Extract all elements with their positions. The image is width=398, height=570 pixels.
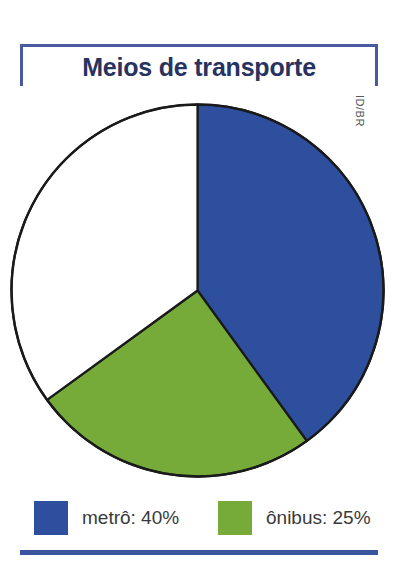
- legend-label-metro: metrô: 40%: [82, 507, 179, 529]
- footer-rule: [20, 550, 378, 555]
- legend-swatch-metro: [34, 501, 68, 535]
- legend-item-metro[interactable]: metrô: 40%: [34, 496, 179, 540]
- chart-legend: metrô: 40% ônibus: 25%: [0, 496, 398, 540]
- legend-swatch-onibus: [218, 501, 252, 535]
- pie-chart-svg: [9, 102, 386, 479]
- frame-top-rule: [20, 44, 378, 47]
- pie-chart: [9, 102, 386, 479]
- legend-item-onibus[interactable]: ônibus: 25%: [218, 496, 371, 540]
- legend-label-onibus: ônibus: 25%: [266, 507, 371, 529]
- chart-figure: Meios de transporte ID/BR metrô: 40% ôni…: [0, 0, 398, 570]
- chart-title: Meios de transporte: [0, 50, 398, 84]
